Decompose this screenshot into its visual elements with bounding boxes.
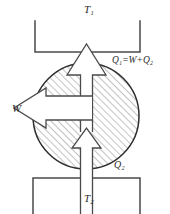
work-label: W [12, 103, 21, 114]
heat-in-label: Q₂ [114, 160, 125, 170]
hot-reservoir-label: T₁ [84, 4, 94, 15]
heat-engine-figure: T₁ Q₁=W+Q₂ W Q₂ T₂ [0, 0, 170, 214]
cold-reservoir-label: T₂ [84, 193, 94, 204]
heat-out-label: Q₁=W+Q₂ [112, 56, 153, 66]
diagram-canvas [0, 0, 170, 214]
